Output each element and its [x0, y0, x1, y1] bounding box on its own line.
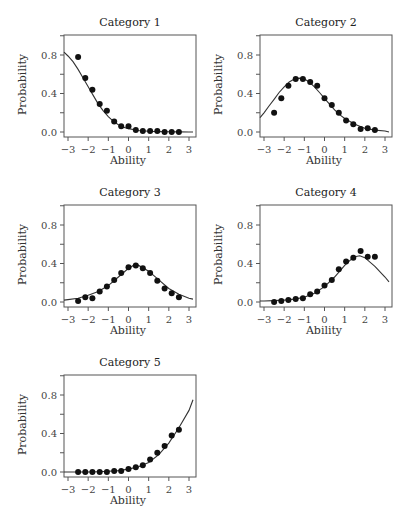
data-point	[82, 469, 88, 475]
data-point	[154, 278, 160, 284]
data-point	[154, 450, 160, 456]
x-tick-label: 2	[362, 144, 368, 155]
x-tick-label: 1	[145, 484, 151, 495]
model-curve	[260, 256, 389, 301]
data-point	[104, 108, 110, 114]
data-point	[126, 123, 132, 129]
x-tick-label: −2	[81, 314, 96, 325]
plot-area: 0.00.40.8−3−2−10123	[196, 170, 396, 345]
chart-panel-category-3: Category 3ProbabilityAbility0.00.40.8−3−…	[0, 170, 200, 345]
data-point	[285, 297, 291, 303]
data-point	[350, 255, 356, 261]
y-tick-label: 0.8	[237, 220, 253, 231]
x-tick-label: 0	[125, 314, 131, 325]
data-point	[147, 457, 153, 463]
plot-frame	[64, 375, 196, 477]
x-tick-label: −1	[101, 144, 116, 155]
data-point	[314, 288, 320, 294]
x-tick-label: −2	[81, 484, 96, 495]
model-curve	[260, 78, 389, 132]
data-point	[300, 295, 306, 301]
y-tick-label: 0.4	[41, 428, 57, 439]
data-point	[372, 254, 378, 260]
data-point	[154, 128, 160, 134]
plot-area: 0.00.40.8−3−2−10123	[0, 340, 200, 515]
x-tick-label: 2	[362, 314, 368, 325]
data-point	[372, 127, 378, 133]
chart-panel-category-2: Category 2ProbabilityAbility0.00.40.8−3−…	[196, 0, 396, 175]
data-point	[329, 102, 335, 108]
data-point	[111, 277, 117, 283]
data-point	[343, 118, 349, 124]
x-tick-label: −3	[61, 144, 76, 155]
x-tick-label: 2	[166, 144, 172, 155]
data-point	[358, 248, 364, 254]
y-tick-label: 0.8	[41, 50, 57, 61]
data-point	[278, 298, 284, 304]
data-point	[147, 270, 153, 276]
data-point	[75, 54, 81, 60]
data-point	[118, 123, 124, 129]
data-point	[271, 110, 277, 116]
x-tick-label: −2	[81, 144, 96, 155]
x-tick-label: −1	[297, 144, 312, 155]
data-point	[126, 264, 132, 270]
x-tick-label: −3	[61, 314, 76, 325]
data-point	[89, 469, 95, 475]
data-point	[97, 288, 103, 294]
data-point	[365, 254, 371, 260]
y-tick-label: 0.8	[41, 220, 57, 231]
data-point	[314, 83, 320, 89]
plot-frame	[64, 35, 196, 137]
x-tick-label: −3	[257, 144, 272, 155]
x-tick-label: 3	[382, 314, 388, 325]
data-point	[285, 83, 291, 89]
data-point	[169, 129, 175, 135]
y-tick-label: 0.0	[41, 467, 57, 478]
data-point	[300, 76, 306, 82]
plot-area: 0.00.40.8−3−2−10123	[196, 0, 396, 175]
y-tick-label: 0.0	[237, 127, 253, 138]
y-tick-label: 0.4	[41, 258, 57, 269]
y-tick-label: 0.4	[237, 258, 253, 269]
data-point	[176, 427, 182, 433]
x-tick-label: −2	[277, 314, 292, 325]
data-point	[322, 95, 328, 101]
x-tick-label: 1	[145, 144, 151, 155]
x-tick-label: 0	[321, 144, 327, 155]
data-point	[89, 87, 95, 93]
data-point	[162, 129, 168, 135]
data-point	[111, 468, 117, 474]
data-point	[82, 294, 88, 300]
data-point	[89, 295, 95, 301]
data-point	[82, 75, 88, 81]
data-point	[118, 468, 124, 474]
data-point	[176, 294, 182, 300]
data-point	[307, 291, 313, 297]
data-point	[365, 125, 371, 131]
data-point	[293, 296, 299, 302]
plot-area: 0.00.40.8−3−2−10123	[0, 170, 200, 345]
x-tick-label: 0	[125, 484, 131, 495]
x-tick-label: 0	[125, 144, 131, 155]
data-point	[358, 126, 364, 132]
data-point	[126, 466, 132, 472]
data-point	[140, 265, 146, 271]
plot-frame	[260, 35, 392, 137]
data-point	[169, 290, 175, 296]
x-tick-label: −1	[101, 484, 116, 495]
chart-panel-category-4: Category 4ProbabilityAbility0.00.40.8−3−…	[196, 170, 396, 345]
data-point	[293, 76, 299, 82]
model-curve	[64, 52, 193, 132]
data-point	[322, 283, 328, 289]
x-tick-label: −1	[101, 314, 116, 325]
y-tick-label: 0.0	[41, 127, 57, 138]
data-point	[97, 469, 103, 475]
data-point	[140, 128, 146, 134]
data-point	[307, 79, 313, 85]
data-point	[336, 110, 342, 116]
data-point	[97, 101, 103, 107]
y-tick-label: 0.0	[237, 297, 253, 308]
x-tick-label: 1	[341, 314, 347, 325]
data-point	[343, 259, 349, 265]
